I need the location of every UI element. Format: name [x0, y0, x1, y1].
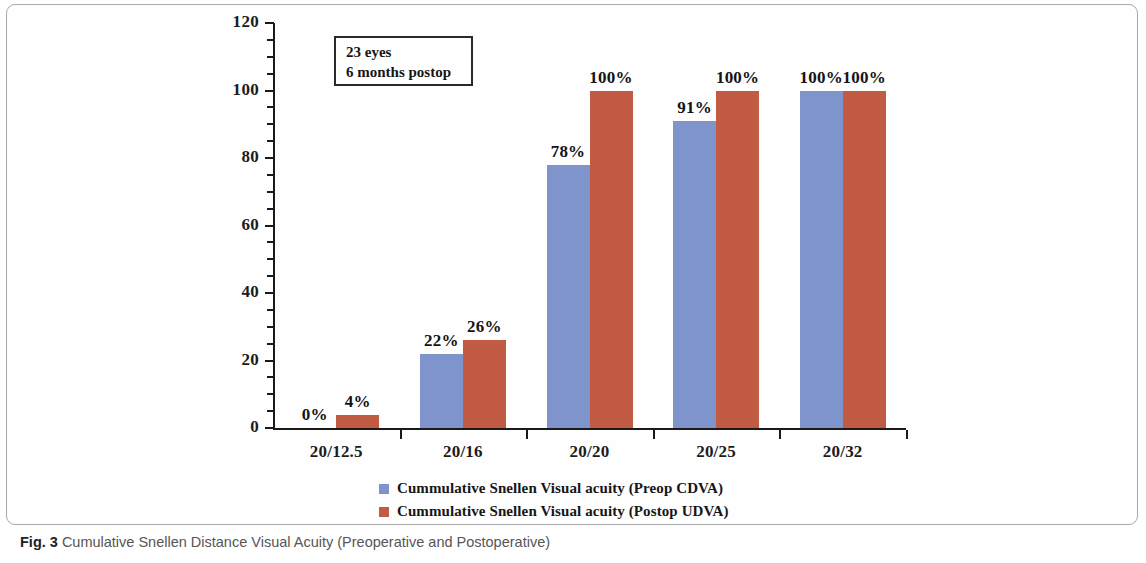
bar — [800, 91, 843, 429]
x-axis-category-label: 20/16 — [400, 442, 527, 462]
bar-value-label: 26% — [467, 317, 502, 337]
x-axis-category-label: 20/32 — [779, 442, 906, 462]
legend-swatch-icon — [379, 507, 389, 517]
figure-caption-text: Cumulative Snellen Distance Visual Acuit… — [62, 534, 550, 550]
bar-value-label: 91% — [677, 98, 712, 118]
y-axis-tick-label-text: 120 — [199, 12, 259, 32]
y-axis-tick-label-text: 60 — [199, 215, 259, 235]
bar-value-label: 100% — [800, 68, 843, 88]
x-axis-category-label: 20/12.5 — [273, 442, 400, 462]
x-axis-tick — [526, 430, 528, 439]
bar-value-label: 100% — [589, 68, 632, 88]
annotation-line-2: 6 months postop — [346, 62, 471, 82]
y-axis-tick-label-text: 40 — [199, 282, 259, 302]
legend-item[interactable]: Cummulative Snellen Visual acuity (Posto… — [379, 500, 839, 523]
bar — [843, 91, 886, 429]
legend-item-label: Cummulative Snellen Visual acuity (Preop… — [397, 480, 723, 497]
chart-frame: 020406080100120 20/12.520/1620/2020/2520… — [6, 4, 1138, 525]
x-axis-tick — [653, 430, 655, 439]
y-axis-tick-label-text: 80 — [199, 147, 259, 167]
figure-caption: Fig. 3Cumulative Snellen Distance Visual… — [20, 534, 550, 550]
annotation-line-1: 23 eyes — [346, 42, 471, 62]
bar-value-label: 0% — [302, 405, 328, 425]
y-axis-tick-label-text: 0 — [199, 417, 259, 437]
bar-value-label: 100% — [843, 68, 886, 88]
x-axis-tick — [779, 430, 781, 439]
bar-value-label: 4% — [345, 392, 371, 412]
annotation-callout: 23 eyes 6 months postop — [334, 36, 473, 86]
y-axis-tick-label-text: 20 — [199, 350, 259, 370]
x-axis-category-label: 20/20 — [526, 442, 653, 462]
legend-swatch-icon — [379, 484, 389, 494]
bar-value-label: 22% — [424, 331, 459, 351]
bar — [716, 91, 759, 429]
x-axis-tick — [400, 430, 402, 439]
y-axis-tick-label: 60 — [193, 215, 259, 235]
y-axis-tick-label: 80 — [193, 147, 259, 167]
y-axis-tick-label: 20 — [193, 350, 259, 370]
bar — [463, 340, 506, 428]
bar — [420, 354, 463, 428]
bar — [673, 121, 716, 428]
x-axis-line — [273, 428, 906, 430]
x-axis-category-label: 20/25 — [653, 442, 780, 462]
figure-3-container: 020406080100120 20/12.520/1620/2020/2520… — [0, 0, 1146, 563]
bar — [547, 165, 590, 428]
bar — [590, 91, 633, 429]
figure-caption-label: Fig. 3 — [20, 534, 58, 550]
y-axis-tick-label: 120 — [193, 12, 259, 32]
y-axis-tick-label: 100 — [193, 80, 259, 100]
y-axis-tick-label: 40 — [193, 282, 259, 302]
x-axis-tick — [906, 430, 908, 439]
bar-value-label: 78% — [551, 142, 586, 162]
y-axis-tick-label: 0 — [193, 417, 259, 437]
bar — [336, 415, 379, 429]
bar-value-label: 100% — [716, 68, 759, 88]
legend-item[interactable]: Cummulative Snellen Visual acuity (Preop… — [379, 477, 839, 500]
legend-item-label: Cummulative Snellen Visual acuity (Posto… — [397, 503, 729, 520]
chart-legend: Cummulative Snellen Visual acuity (Preop… — [379, 477, 839, 523]
plot-area: 020406080100120 20/12.520/1620/2020/2520… — [7, 5, 1139, 526]
y-axis-tick-label-text: 100 — [199, 80, 259, 100]
